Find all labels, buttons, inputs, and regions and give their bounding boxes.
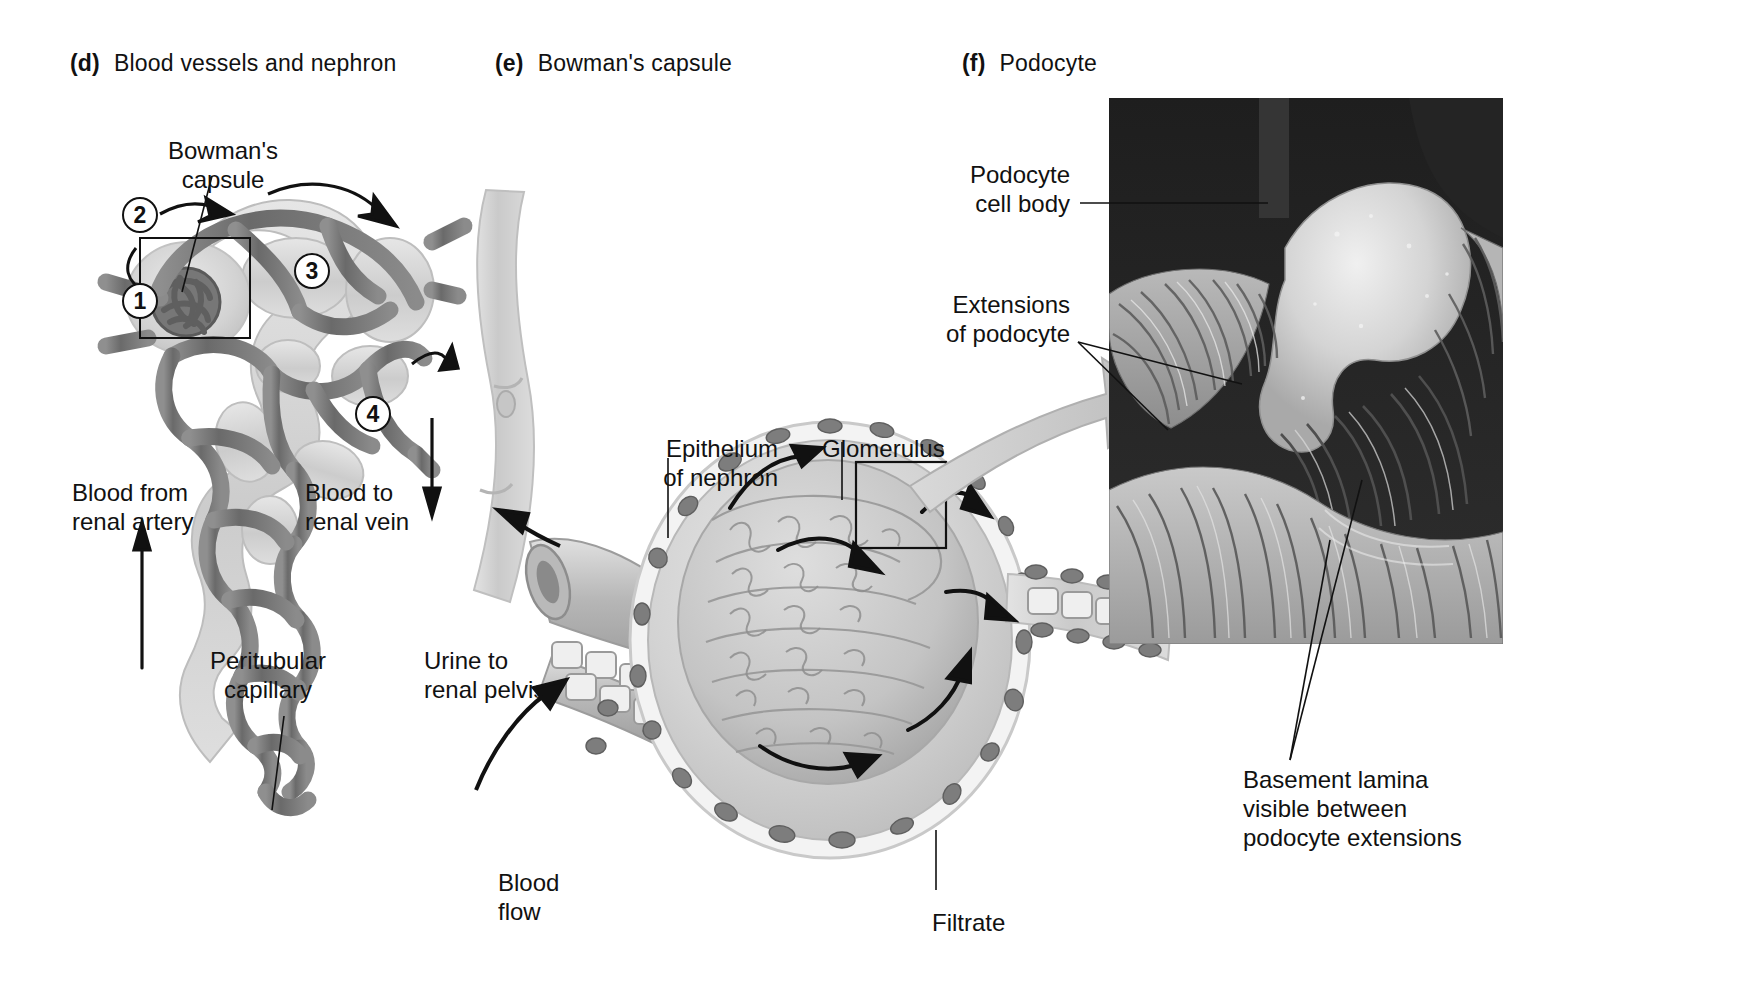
step-marker-1[interactable]: 1 <box>122 283 158 319</box>
label-bowmans-capsule: Bowman's capsule <box>133 136 313 194</box>
figure-kidney-nephron: (d)Blood vessels and nephron (e)Bowman's… <box>0 0 1761 997</box>
panel-tag-d: (d) <box>70 50 100 76</box>
label-basement-lamina: Basement lamina visible between podocyte… <box>1243 765 1543 852</box>
panel-tag-e: (e) <box>495 50 524 76</box>
label-epithelium-of-nephron: Epithelium of nephron <box>600 434 778 492</box>
panel-title-f: Podocyte <box>1000 50 1098 76</box>
leader-basement-lamina-a <box>1290 540 1330 760</box>
collecting-duct <box>474 190 534 602</box>
leader-extensions-podocyte-b <box>1078 342 1242 384</box>
step-marker-3[interactable]: 3 <box>294 253 330 289</box>
label-extensions-of-podocyte: Extensions of podocyte <box>856 290 1070 348</box>
label-podocyte-cell-body: Podocyte cell body <box>870 160 1070 218</box>
panel-title-d: Blood vessels and nephron <box>114 50 396 76</box>
blood-flow-arrow <box>476 680 566 790</box>
step-marker-4[interactable]: 4 <box>355 396 391 432</box>
panel-tag-f: (f) <box>962 50 986 76</box>
panel-heading-e: (e)Bowman's capsule <box>495 50 732 77</box>
panel-heading-f: (f)Podocyte <box>962 50 1097 77</box>
panel-heading-d: (d)Blood vessels and nephron <box>70 50 396 77</box>
step-marker-2[interactable]: 2 <box>122 197 158 233</box>
panel-title-e: Bowman's capsule <box>538 50 732 76</box>
leader-basement-lamina-b <box>1290 480 1362 760</box>
leader-extensions-podocyte-a <box>1078 342 1168 430</box>
label-peritubular-capillary: Peritubular capillary <box>168 646 368 704</box>
label-blood-from-renal-artery: Blood from renal artery <box>72 478 262 536</box>
label-blood-flow: Blood flow <box>498 868 658 926</box>
